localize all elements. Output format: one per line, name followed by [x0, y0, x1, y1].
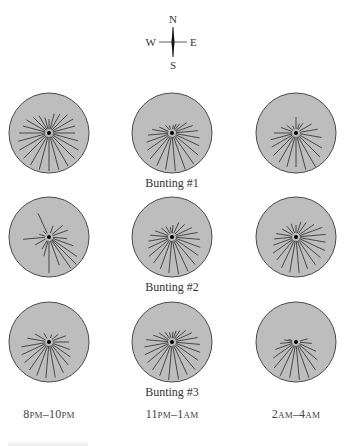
compass-west-label: W	[146, 36, 157, 48]
orientation-panels	[9, 93, 336, 382]
time-label-2am-4am: 2AM–4AM	[236, 407, 354, 422]
orientation-disc	[256, 197, 336, 277]
orientation-figure: N S E W	[0, 0, 354, 446]
compass-north-label: N	[169, 13, 177, 25]
time-start-suffix: AM	[278, 410, 293, 420]
orientation-disc	[9, 197, 89, 277]
orientation-disc	[9, 93, 89, 173]
center-dot	[294, 131, 298, 135]
time-end-suffix: PM	[61, 410, 74, 420]
orientation-disc	[132, 93, 212, 173]
time-label-8pm-10pm: 8PM–10PM	[0, 407, 109, 422]
time-end-suffix: AM	[305, 410, 320, 420]
center-dot	[170, 131, 174, 135]
row-label-bunting-1: Bunting #1	[112, 176, 232, 191]
center-dot	[170, 340, 174, 344]
center-dot	[294, 340, 298, 344]
time-end: 10	[49, 407, 61, 421]
center-dot	[47, 235, 51, 239]
time-start: 11	[146, 407, 158, 421]
time-label-11pm-1am: 11PM–1AM	[112, 407, 232, 422]
row-label-bunting-2: Bunting #2	[112, 280, 232, 295]
activity-ray	[172, 332, 173, 338]
center-dot	[294, 235, 298, 239]
row-label-bunting-3: Bunting #3	[112, 385, 232, 400]
orientation-disc	[9, 302, 89, 382]
compass-rose-icon: N S E W	[146, 13, 197, 71]
compass-east-label: E	[190, 36, 197, 48]
center-dot	[47, 340, 51, 344]
orientation-disc	[132, 302, 212, 382]
time-start-suffix: PM	[29, 410, 42, 420]
orientation-disc	[132, 197, 212, 277]
center-dot	[170, 235, 174, 239]
orientation-disc	[256, 93, 336, 173]
center-dot	[47, 131, 51, 135]
time-start-suffix: PM	[158, 410, 171, 420]
orientation-disc	[256, 302, 336, 382]
compass-south-label: S	[170, 59, 176, 71]
time-end-suffix: AM	[183, 410, 198, 420]
clipped-caption	[8, 440, 88, 446]
